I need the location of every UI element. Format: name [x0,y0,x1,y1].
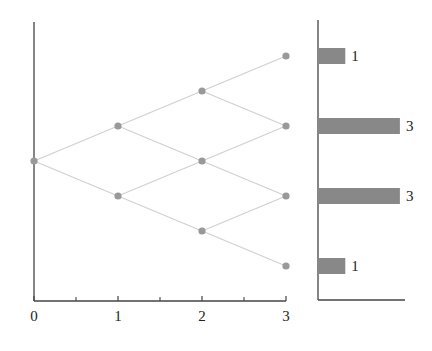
histogram-bar-label: 1 [351,48,359,64]
lattice-node [198,87,205,94]
histogram-bar [318,48,345,64]
lattice-edge [118,196,202,231]
lattice-edges [34,56,286,266]
histogram-bar [318,258,345,274]
lattice-node [114,122,121,129]
axes: 0123 [30,22,290,324]
histogram-bar-label: 1 [351,258,359,274]
x-tick-label: 1 [114,308,122,324]
lattice-edge [202,56,286,91]
lattice-edge [34,126,118,161]
lattice-node [282,192,289,199]
x-tick-label: 0 [30,308,38,324]
lattice-nodes [30,52,289,269]
lattice-edge [34,161,118,196]
lattice-edge [202,126,286,161]
lattice-edge [202,161,286,196]
histogram-bar-label: 3 [406,118,414,134]
lattice-edge [118,126,202,161]
lattice-node [30,157,37,164]
histogram-bar-label: 3 [406,188,414,204]
lattice-edge [202,91,286,126]
lattice-node [282,262,289,269]
histogram-bar [318,188,400,204]
lattice-edge [118,91,202,126]
x-tick-label: 2 [198,308,206,324]
lattice-node [114,192,121,199]
lattice-node [198,157,205,164]
lattice-node [282,52,289,59]
x-tick-label: 3 [282,308,290,324]
lattice-node [282,122,289,129]
binomial-tree-diagram: 0123 1331 [0,0,432,351]
lattice-edge [202,231,286,266]
lattice-node [198,227,205,234]
lattice-edge [202,196,286,231]
lattice-edge [118,161,202,196]
histogram-bar [318,118,400,134]
histogram: 1331 [318,20,413,300]
